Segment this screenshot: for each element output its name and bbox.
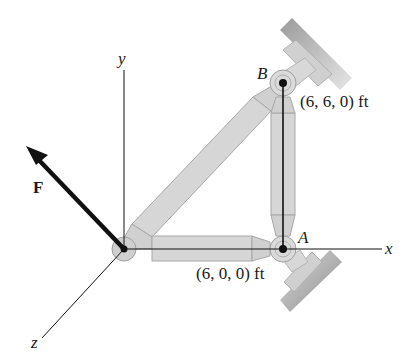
member-origin-b xyxy=(124,86,285,249)
point-b-label: B xyxy=(257,64,268,83)
z-axis xyxy=(42,249,124,338)
y-axis-label: y xyxy=(116,49,126,68)
force-arrow xyxy=(26,146,124,249)
x-axis-label: x xyxy=(384,239,393,258)
point-b-coords: (6, 6, 0) ft xyxy=(300,92,369,111)
truss-diagram: y x z F B (6, 6, 0) ft A (6, 0, 0) ft xyxy=(0,0,419,364)
point-a-coords: (6, 0, 0) ft xyxy=(196,264,265,283)
z-axis-label: z xyxy=(30,333,38,352)
joint-b-dot xyxy=(279,79,287,87)
joint-a-dot xyxy=(279,245,287,253)
point-a-label: A xyxy=(297,228,309,247)
arrowhead-icon xyxy=(26,146,48,165)
force-label: F xyxy=(33,178,43,197)
